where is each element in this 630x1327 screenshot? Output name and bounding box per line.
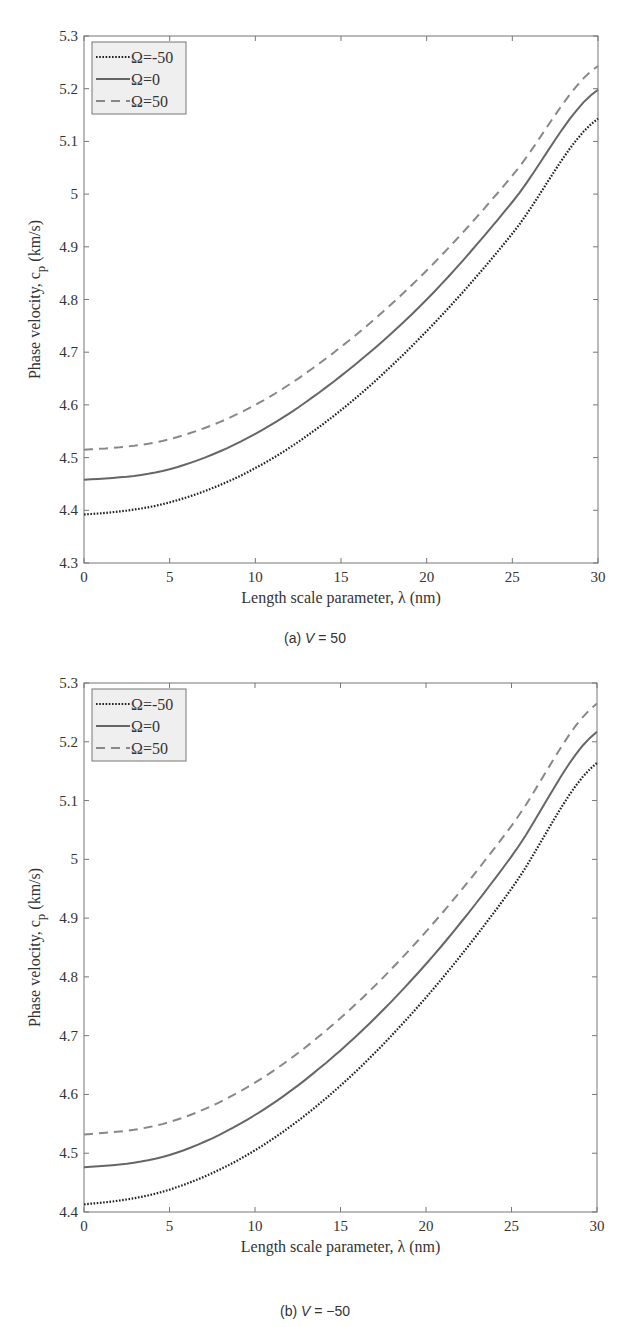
y-tick-label: 4.6: [59, 397, 78, 413]
caption-value: = −50: [310, 1303, 350, 1319]
y-tick-label: 5: [71, 186, 79, 202]
chart-b-plot: 0510152025304.44.54.64.74.84.955.15.25.3…: [0, 655, 630, 1295]
series-line-dashed: [84, 66, 598, 450]
y-tick-label: 4.9: [59, 239, 78, 255]
x-tick-label: 15: [334, 569, 349, 585]
y-tick-label: 5.3: [59, 675, 78, 691]
chart-b-caption: (b) V = −50: [0, 1303, 630, 1319]
y-tick-label: 5.1: [59, 133, 78, 149]
caption-variable: V: [305, 630, 314, 646]
plot-frame: [84, 36, 598, 563]
y-tick-label: 4.8: [59, 969, 78, 985]
y-tick-label: 4.9: [59, 910, 78, 926]
y-tick-label: 4.7: [59, 344, 78, 360]
chart-panel-b: 0510152025304.44.54.64.74.84.955.15.25.3…: [0, 655, 630, 1327]
chart-a-caption: (a) V = 50: [0, 630, 630, 646]
x-tick-label: 30: [591, 569, 606, 585]
y-tick-label: 4.5: [59, 1145, 78, 1161]
x-tick-label: 0: [80, 569, 88, 585]
legend-entry-label: Ω=-50: [131, 49, 173, 66]
y-tick-label: 4.6: [59, 1086, 78, 1102]
x-axis-label: Length scale parameter, λ (nm): [241, 589, 440, 607]
legend-entry-label: Ω=50: [131, 740, 168, 757]
x-tick-label: 5: [166, 569, 174, 585]
series-line-dotted: [84, 763, 597, 1205]
plot-frame: [84, 683, 597, 1212]
series-line-dotted: [84, 119, 598, 515]
x-tick-label: 0: [80, 1218, 88, 1234]
y-tick-label: 5.2: [59, 734, 78, 750]
caption-prefix: (a): [284, 630, 305, 646]
chart-a-plot: 0510152025304.34.44.54.64.74.84.955.15.2…: [0, 0, 630, 630]
y-tick-label: 4.4: [59, 502, 78, 518]
legend-entry-label: Ω=0: [131, 718, 160, 735]
series-line-solid: [84, 732, 597, 1168]
legend-entry-label: Ω=0: [131, 71, 160, 88]
caption-prefix: (b): [280, 1303, 301, 1319]
y-tick-label: 5.2: [59, 81, 78, 97]
x-tick-label: 20: [419, 1218, 434, 1234]
x-axis-label: Length scale parameter, λ (nm): [241, 1238, 440, 1256]
y-tick-label: 4.7: [59, 1028, 78, 1044]
caption-variable: V: [301, 1303, 310, 1319]
y-tick-label: 4.5: [59, 450, 78, 466]
series-line-solid: [84, 90, 598, 480]
y-tick-label: 5.1: [59, 793, 78, 809]
y-axis-label: Phase velocity, cp (km/s): [26, 220, 48, 379]
legend-entry-label: Ω=50: [131, 93, 168, 110]
x-tick-label: 25: [504, 1218, 519, 1234]
x-tick-label: 20: [419, 569, 434, 585]
y-tick-label: 4.8: [59, 292, 78, 308]
x-tick-label: 15: [333, 1218, 348, 1234]
y-axis-label: Phase velocity, cp (km/s): [26, 868, 48, 1027]
x-tick-label: 30: [590, 1218, 605, 1234]
y-tick-label: 5.3: [59, 28, 78, 44]
chart-panel-a: 0510152025304.34.44.54.64.74.84.955.15.2…: [0, 0, 630, 655]
x-tick-label: 10: [248, 1218, 263, 1234]
legend-entry-label: Ω=-50: [131, 696, 173, 713]
series-line-dashed: [84, 704, 597, 1135]
y-tick-label: 4.3: [59, 555, 78, 571]
x-tick-label: 10: [248, 569, 263, 585]
x-tick-label: 25: [505, 569, 520, 585]
y-tick-label: 5: [71, 851, 79, 867]
x-tick-label: 5: [166, 1218, 174, 1234]
caption-value: = 50: [314, 630, 346, 646]
y-tick-label: 4.4: [59, 1204, 78, 1220]
